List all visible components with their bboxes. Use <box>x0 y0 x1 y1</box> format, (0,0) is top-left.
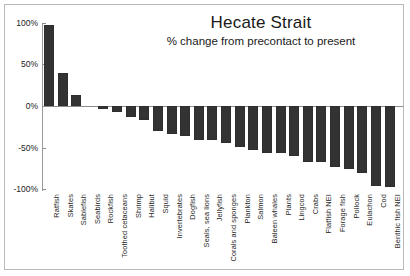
x-axis-category-label: Skates <box>66 194 75 217</box>
x-axis-category-label: Salmon <box>256 194 265 220</box>
bar <box>44 25 54 106</box>
y-axis-tick-label: 50% <box>5 59 38 69</box>
x-axis-category-label: Lingcod <box>297 194 306 221</box>
x-axis-category-label: Flatfish NEI <box>324 194 333 233</box>
bar <box>153 106 163 131</box>
bar <box>221 106 231 143</box>
bar <box>276 106 286 153</box>
x-axis-category-label: Shrimp <box>134 194 143 218</box>
x-axis-category-label: Benthic fish NEI <box>393 194 402 248</box>
x-axis-category-label: Ratfish <box>52 194 61 218</box>
bar <box>98 106 108 109</box>
x-axis-category-label: Cod <box>379 194 388 208</box>
x-axis-category-label: Eulachon <box>365 194 374 226</box>
x-axis-category-label: Baleen whales <box>270 194 279 243</box>
y-axis-tick-label: -50% <box>5 143 38 153</box>
bar <box>167 106 177 134</box>
x-axis-category-label: Pollock <box>352 194 361 219</box>
bar <box>180 106 190 136</box>
x-axis-category-label: Plankton <box>243 194 252 224</box>
x-axis-category-label: Forage fish <box>338 194 347 232</box>
bar <box>371 106 381 186</box>
bar <box>385 106 395 187</box>
bar <box>330 106 340 167</box>
y-axis-tick-label: 0% <box>5 101 38 111</box>
bar <box>303 106 313 162</box>
x-axis-category-label: Jellyfish <box>215 194 224 221</box>
x-axis-category-label: Corals and sponges <box>229 194 238 262</box>
x-axis-category-label: Seals, sea lions <box>202 194 211 247</box>
bar <box>58 73 68 106</box>
x-axis-category-label: Seabirds <box>93 194 102 224</box>
x-axis-category-label: Halibut <box>147 194 156 218</box>
x-axis-category-label: Squid <box>161 194 170 213</box>
bar <box>235 106 245 147</box>
bar <box>71 95 81 106</box>
x-axis-category-label: Dogfish <box>188 194 197 220</box>
bar <box>316 106 326 162</box>
y-axis-tick-label: -100% <box>5 184 38 194</box>
y-axis-tick-label: 100% <box>5 18 38 28</box>
bar <box>207 106 217 140</box>
bar <box>344 106 354 169</box>
bar <box>126 106 136 117</box>
bar <box>262 106 272 153</box>
bar-series <box>43 5 403 276</box>
bar <box>248 106 258 150</box>
x-axis-category-label: Crabs <box>311 194 320 214</box>
bar <box>194 106 204 140</box>
bar <box>357 106 367 173</box>
x-axis-category-label: Rockfish <box>106 194 115 223</box>
chart-frame: Hecate Strait % change from precontact t… <box>4 4 404 270</box>
bar <box>112 106 122 112</box>
x-axis-category-label: Invertebrates <box>175 194 184 238</box>
bar <box>289 106 299 156</box>
x-axis-category-label: Plants <box>284 194 293 215</box>
x-axis-category-label: Sablefish <box>79 194 88 225</box>
bar <box>139 106 149 120</box>
x-axis-category-label: Toothed cetaceans <box>120 194 129 258</box>
